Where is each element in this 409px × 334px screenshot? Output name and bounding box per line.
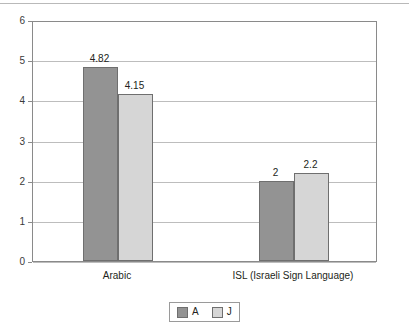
bar-j-1[interactable] (294, 173, 329, 261)
legend-label-a: A (192, 307, 199, 317)
y-axis-tick-label: 4 (5, 96, 25, 106)
y-axis-tick-label: 6 (5, 16, 25, 26)
y-axis-tick-mark (28, 262, 32, 263)
y-axis-tick-label: 1 (5, 217, 25, 227)
y-axis-tick-label: 3 (5, 137, 25, 147)
bar-value-label: 4.82 (72, 53, 127, 64)
bar-j-0[interactable] (118, 94, 153, 261)
bar-value-label: 2.2 (283, 159, 338, 170)
bar-chart-figure: 0123456 ArabicISL (Israeli Sign Language… (0, 0, 409, 334)
top-divider-rule (0, 3, 409, 4)
bar-a-0[interactable] (83, 67, 118, 261)
y-axis-tick-label: 0 (5, 257, 25, 267)
legend-label-j: J (227, 307, 232, 317)
bar-value-label: 4.15 (107, 80, 162, 91)
legend-item-a[interactable]: A (177, 307, 199, 318)
legend-item-j[interactable]: J (212, 307, 232, 318)
legend-swatch-a-icon (177, 307, 188, 318)
gridline (33, 262, 376, 263)
legend-swatch-j-icon (212, 307, 223, 318)
chart-legend: A J (169, 302, 240, 322)
bar-a-1[interactable] (259, 181, 294, 261)
x-axis-category-label: ISL (Israeli Sign Language) (193, 270, 393, 281)
x-axis-category-label: Arabic (17, 270, 217, 281)
y-axis-tick-label: 2 (5, 177, 25, 187)
y-axis-tick-label: 5 (5, 56, 25, 66)
